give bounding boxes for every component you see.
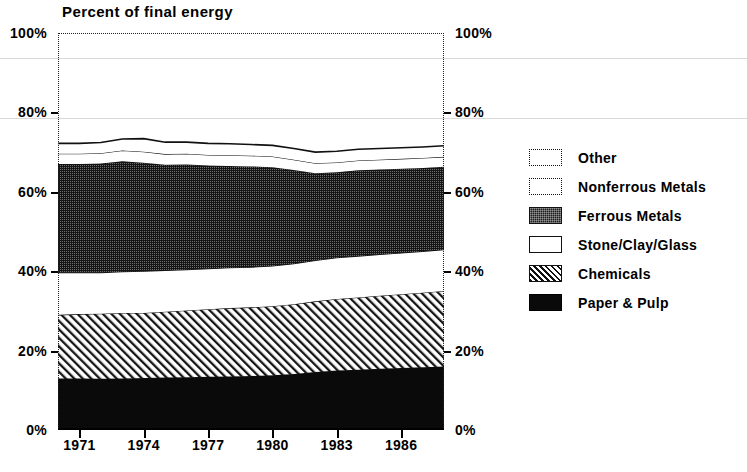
x-axis-label: 1983: [321, 437, 353, 453]
legend-swatch-icon: [529, 149, 562, 166]
legend-item-label: Stone/Clay/Glass: [578, 237, 697, 253]
y-axis-label-left: 80%: [18, 104, 47, 120]
y-axis-label-left: 40%: [18, 263, 47, 279]
y-axis-label-right: 80%: [455, 104, 484, 120]
x-axis-label: 1971: [63, 437, 95, 453]
legend-swatch-icon: [529, 265, 562, 282]
y-tick-right: [444, 271, 451, 273]
x-axis-line: [58, 428, 444, 430]
y-axis-label-right: 40%: [455, 263, 484, 279]
y-tick-left: [51, 271, 58, 273]
plot-border-top: [58, 33, 444, 34]
x-axis-label: 1980: [256, 437, 288, 453]
y-axis-label-left: 100%: [10, 25, 47, 41]
y-axis-label-left: 20%: [18, 343, 47, 359]
legend-item-label: Other: [578, 150, 617, 166]
y-tick-right: [444, 351, 451, 353]
plot-border-right: [443, 33, 444, 430]
y-axis-label-left: 60%: [18, 184, 47, 200]
y-tick-right: [444, 112, 451, 114]
y-axis-label-left: 0%: [26, 422, 47, 438]
plot-area: 0%20%40%60%80%100% 0%20%40%60%80%100% 19…: [58, 33, 444, 430]
y-axis-label-right: 0%: [455, 422, 476, 438]
legend-swatch-icon: [529, 294, 562, 311]
legend-item[interactable]: Paper & Pulp: [529, 288, 706, 317]
x-axis-label: 1974: [128, 437, 160, 453]
legend-item-label: Ferrous Metals: [578, 208, 682, 224]
page-title: Percent of final energy: [62, 3, 233, 20]
stacked-area-plot: [58, 33, 444, 430]
y-axis-label-right: 20%: [455, 343, 484, 359]
x-axis-label: 1986: [385, 437, 417, 453]
legend-item[interactable]: Other: [529, 143, 706, 172]
legend-swatch-icon: [529, 178, 562, 195]
legend-item[interactable]: Stone/Clay/Glass: [529, 230, 706, 259]
legend-item[interactable]: Ferrous Metals: [529, 201, 706, 230]
y-axis-label-right: 100%: [455, 25, 492, 41]
legend-swatch-icon: [529, 207, 562, 224]
plot-border-left: [58, 33, 59, 430]
y-tick-left: [51, 112, 58, 114]
legend-item-label: Paper & Pulp: [578, 295, 669, 311]
y-axis-label-right: 60%: [455, 184, 484, 200]
x-axis-label: 1977: [192, 437, 224, 453]
legend: OtherNonferrous MetalsFerrous MetalsSton…: [529, 143, 706, 317]
legend-item-label: Chemicals: [578, 266, 651, 282]
y-tick-left: [51, 192, 58, 194]
y-tick-right: [444, 192, 451, 194]
y-tick-left: [51, 351, 58, 353]
legend-item[interactable]: Nonferrous Metals: [529, 172, 706, 201]
legend-item[interactable]: Chemicals: [529, 259, 706, 288]
legend-item-label: Nonferrous Metals: [578, 179, 706, 195]
legend-swatch-icon: [529, 236, 562, 253]
